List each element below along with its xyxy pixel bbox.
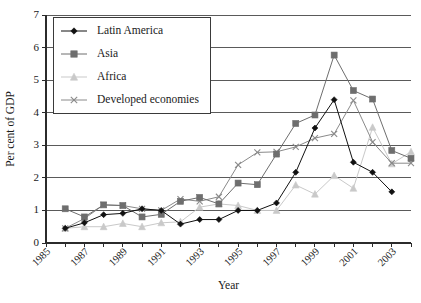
y-axis-title: Per cent of GDP [4, 91, 16, 167]
data-point-marker [331, 172, 338, 179]
data-point-marker [369, 124, 376, 131]
data-point-marker [274, 151, 280, 157]
x-tick-label: 1999 [299, 246, 322, 269]
data-point-marker [177, 198, 183, 204]
data-point-marker [101, 212, 107, 218]
y-tick-label: 3 [34, 138, 40, 150]
x-tick-label: 1995 [222, 246, 245, 269]
y-tick-label: 2 [34, 171, 40, 183]
data-point-marker [293, 169, 299, 175]
data-point-marker [408, 148, 415, 155]
data-point-marker [331, 52, 337, 58]
data-point-marker [71, 51, 77, 57]
legend-item-label: Latin America [97, 24, 163, 36]
data-point-marker [120, 210, 126, 216]
gdp-line-chart: 01234567 1985198719891991199319951997199… [0, 0, 421, 303]
x-tick-label: 2001 [337, 246, 360, 269]
data-point-marker [81, 214, 87, 220]
data-point-marker [101, 202, 107, 208]
legend-item-label: Asia [97, 47, 118, 59]
data-point-marker [292, 181, 299, 188]
data-point-marker [350, 159, 356, 165]
data-point-marker [350, 97, 356, 103]
y-axis-title-text: Per cent of GDP [4, 91, 16, 167]
x-tick-label: 1989 [107, 246, 130, 269]
x-tick-label: 1985 [30, 246, 53, 269]
x-tick-label: 1991 [145, 246, 168, 269]
y-tick-label: 7 [34, 8, 40, 20]
chart-container: 01234567 1985198719891991199319951997199… [0, 0, 421, 303]
data-point-marker [197, 194, 203, 200]
data-point-marker [350, 185, 357, 192]
data-point-marker [370, 96, 376, 102]
y-tick-label: 6 [34, 41, 40, 53]
x-axis-title-text: Year [218, 279, 239, 291]
x-tick-label: 1997 [260, 246, 283, 269]
data-point-marker [62, 206, 68, 212]
data-point-marker [312, 112, 318, 118]
data-point-marker [139, 214, 145, 220]
data-point-marker [254, 182, 260, 188]
data-point-marker [370, 139, 376, 145]
x-tick-label: 1993 [183, 246, 206, 269]
data-point-marker [312, 125, 318, 131]
legend-item-label: Developed economies [97, 93, 199, 106]
data-point-marker [408, 155, 414, 161]
x-tick-label: 1987 [68, 246, 91, 269]
data-point-marker [389, 147, 395, 153]
data-point-marker [216, 201, 222, 207]
y-tick-label: 0 [34, 236, 40, 248]
x-tick-label: 2003 [376, 246, 399, 269]
data-point-marker [274, 200, 280, 206]
legend-item-label: Africa [97, 70, 126, 82]
chart-legend: Latin AmericaAsiaAfricaDeveloped economi… [53, 17, 210, 113]
y-tick-label: 5 [34, 73, 40, 85]
data-point-marker [350, 88, 356, 94]
data-point-marker [119, 220, 126, 227]
data-point-marker [216, 217, 222, 223]
data-point-marker [293, 120, 299, 126]
series-latin-america [62, 97, 395, 232]
x-axis: 1985198719891991199319951997199920012003 [30, 243, 411, 268]
data-point-marker [235, 162, 241, 168]
x-axis-title: Year [218, 279, 239, 291]
data-point-marker [197, 217, 203, 223]
y-tick-label: 4 [34, 106, 40, 118]
data-point-marker [120, 203, 126, 209]
y-axis: 01234567 [34, 8, 47, 248]
y-tick-label: 1 [34, 203, 40, 215]
data-point-marker [331, 97, 337, 103]
data-point-marker [235, 180, 241, 186]
